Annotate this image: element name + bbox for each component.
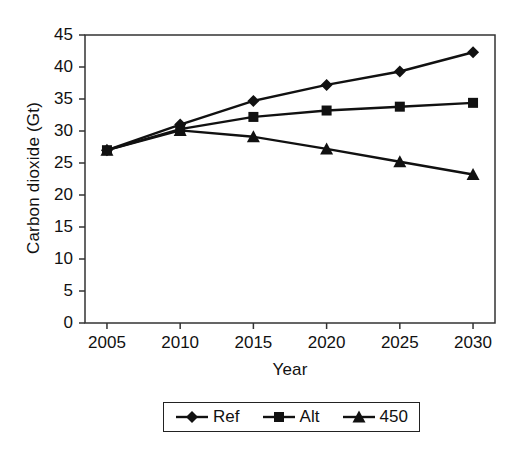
legend-entry-label: Ref (211, 407, 239, 427)
y-axis-tick-label: 10 (39, 249, 73, 269)
data-point-marker-square (395, 102, 405, 112)
y-axis-tick-label: 0 (39, 313, 73, 333)
data-point-marker-square (274, 412, 284, 422)
x-axis-tick-marks (107, 323, 473, 329)
x-axis-tick-label: 2015 (223, 333, 283, 353)
plot-frame (85, 35, 495, 323)
y-axis-tick-label: 15 (39, 217, 73, 237)
data-point-marker-diamond (186, 411, 198, 423)
y-axis-tick-label: 20 (39, 185, 73, 205)
data-point-marker-square (468, 98, 478, 108)
x-axis-tick-label: 2020 (297, 333, 357, 353)
legend-entry-alt: Alt (262, 407, 320, 427)
x-axis-tick-label: 2010 (150, 333, 210, 353)
x-axis-tick-label: 2025 (370, 333, 430, 353)
legend-marker-triangle-icon (342, 408, 376, 426)
data-point-marker-square (322, 106, 332, 116)
x-axis-tick-label: 2005 (77, 333, 137, 353)
legend-marker-square-icon (262, 408, 296, 426)
y-axis-tick-label: 35 (39, 89, 73, 109)
y-axis-tick-label: 25 (39, 153, 73, 173)
chart-plot-area (0, 0, 525, 463)
chart-figure: Carbon dioxide (Gt) Year 051015202530354… (0, 0, 525, 463)
legend-entry-ref: Ref (175, 407, 239, 427)
y-axis-tick-marks (79, 35, 85, 323)
legend-entry-label: Alt (298, 407, 320, 427)
legend-entry-label: 450 (378, 407, 408, 427)
x-axis-title: Year (60, 360, 520, 380)
x-axis-tick-label: 2030 (443, 333, 503, 353)
chart-legend: RefAlt450 (163, 402, 420, 432)
legend-entry-450: 450 (342, 407, 408, 427)
y-axis-tick-label: 40 (39, 57, 73, 77)
y-axis-tick-label: 45 (39, 25, 73, 45)
y-axis-tick-label: 30 (39, 121, 73, 141)
y-axis-tick-label: 5 (39, 281, 73, 301)
legend-marker-diamond-icon (175, 408, 209, 426)
data-point-marker-square (248, 112, 258, 122)
